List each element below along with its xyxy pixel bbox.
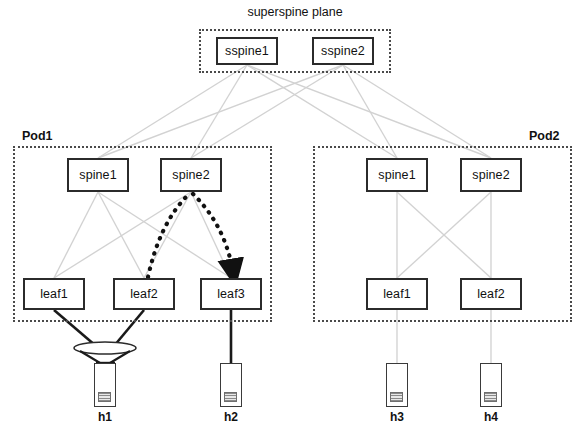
pod1-node-leaf1[interactable]: leaf1: [23, 278, 85, 310]
host-h2-label: h2: [210, 410, 252, 424]
host-h1-label: h1: [84, 410, 126, 424]
pod1-node-leaf3[interactable]: leaf3: [200, 278, 262, 310]
pod2-node-leaf2[interactable]: leaf2: [460, 278, 522, 310]
pod1-node-leaf2[interactable]: leaf2: [113, 278, 175, 310]
server-drive-icon: [484, 392, 497, 402]
server-drive-icon: [390, 392, 403, 402]
server-drive-icon: [224, 392, 237, 402]
host-h3-label: h3: [376, 410, 418, 424]
pod2-node-spine2[interactable]: spine2: [460, 158, 522, 192]
pod2-label: Pod2: [529, 129, 560, 143]
pod1-label: Pod1: [22, 129, 53, 143]
pod2-box: [313, 146, 572, 322]
pod2-node-spine1[interactable]: spine1: [366, 158, 428, 192]
network-topology-diagram: superspine plane sspine1 sspine2 Pod1 sp…: [0, 0, 582, 427]
node-sspine2[interactable]: sspine2: [312, 37, 374, 65]
superspine-plane-title: superspine plane: [199, 5, 391, 19]
host-h3[interactable]: h3: [386, 363, 408, 407]
pod1-node-spine1[interactable]: spine1: [67, 158, 129, 192]
pod1-node-spine2[interactable]: spine2: [160, 158, 222, 192]
host-h2[interactable]: h2: [220, 363, 242, 407]
node-sspine1[interactable]: sspine1: [216, 37, 278, 65]
host-h1[interactable]: h1: [94, 363, 116, 407]
server-drive-icon: [98, 392, 111, 402]
superspine-to-spine-links: [98, 65, 491, 158]
host-h4-label: h4: [470, 410, 512, 424]
pod2-node-leaf1[interactable]: leaf1: [366, 278, 428, 310]
host-h4[interactable]: h4: [480, 363, 502, 407]
